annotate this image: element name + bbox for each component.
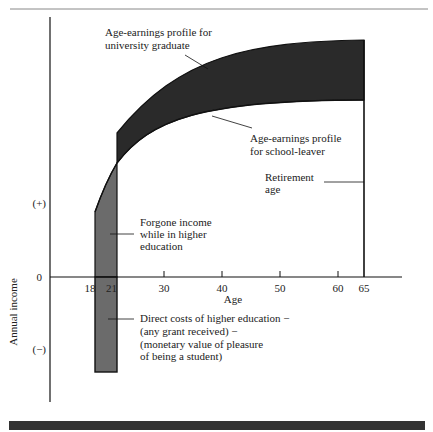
x-axis-label: Age (224, 293, 242, 305)
graduate-premium-band (117, 40, 364, 163)
bottom-rule (9, 421, 425, 430)
direct-costs-label-line2: (any grant received) − (140, 325, 238, 338)
direct-costs-label-line1: Direct costs of higher education − (140, 312, 289, 324)
x-ticks (164, 271, 338, 277)
school-leaver-label-line1: Age-earnings profile (250, 132, 341, 144)
forgone-label-line2: while in higher (140, 228, 207, 240)
y-tick-zero: 0 (37, 271, 43, 283)
school-leaver-leader (212, 116, 252, 128)
age-earnings-diagram: 18 21 30 40 50 60 65 Age 0 (+) (−) Annua… (0, 0, 433, 432)
y-tick-minus: (−) (32, 343, 46, 356)
tick-21: 21 (106, 282, 117, 294)
school-leaver-label-line2: for school-leaver (250, 145, 325, 157)
tick-65: 65 (359, 282, 371, 294)
y-tick-plus: (+) (32, 197, 46, 210)
tick-60: 60 (333, 282, 345, 294)
tick-50: 50 (275, 282, 287, 294)
graduate-label-line2: university graduate (105, 39, 190, 51)
graduate-label-line1: Age-earnings profile for (105, 26, 212, 38)
tick-18: 18 (85, 282, 97, 294)
forgone-income-region (95, 163, 117, 277)
direct-costs-label-line4: of being a student) (140, 350, 223, 363)
retirement-label-line2: age (265, 183, 280, 195)
forgone-label-line3: education (140, 240, 183, 252)
tick-30: 30 (159, 282, 171, 294)
graduate-leader (185, 55, 208, 69)
retirement-label-line1: Retirement (265, 171, 314, 183)
y-axis-label: Annual income (7, 278, 19, 346)
forgone-label-line1: Forgone income (140, 216, 212, 228)
